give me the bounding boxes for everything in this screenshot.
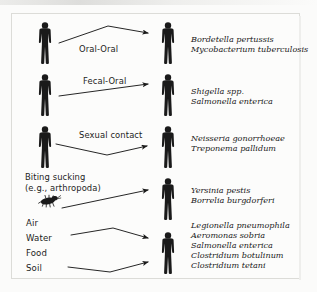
person-silhouette-icon [39, 22, 51, 168]
organism-name: Borrelia burgdorferi [191, 196, 275, 206]
organism-list-environmental: Legionella pneumophila Aeromonas sobria … [191, 221, 290, 271]
arthropod-icon [39, 195, 61, 207]
organism-list-fecal-oral: Shigella spp. Salmonella enterica [191, 87, 273, 107]
route-label-biting-sucking-line2: (e.g., arthropoda) [25, 183, 101, 193]
source-label-air: Air [26, 218, 38, 228]
organism-list-biting-sucking: Yersinia pestis Borrelia burgdorferi [191, 186, 275, 206]
source-label-food: Food [26, 248, 47, 258]
arrow-environment-upper [71, 228, 148, 238]
arrow-oral-oral [59, 26, 148, 43]
route-label-sexual-contact: Sexual contact [79, 130, 142, 140]
route-label-biting-sucking-line1: Biting sucking [25, 172, 85, 182]
organism-name: Mycobacterium tuberculosis [191, 45, 308, 55]
organism-list-oral-oral: Bordetella pertussis Mycobacterium tuber… [191, 35, 308, 55]
route-label-oral-oral: Oral-Oral [79, 44, 118, 54]
organism-list-sexual-contact: Neisseria gonorrhoeae Treponema pallidum [191, 134, 285, 154]
organism-name: Clostridium tetani [191, 261, 290, 271]
organism-name: Treponema pallidum [191, 144, 285, 154]
route-label-fecal-oral: Fecal-Oral [83, 76, 126, 86]
organism-name: Salmonella enterica [191, 97, 273, 107]
person-silhouette-icon [162, 22, 174, 274]
source-label-soil: Soil [26, 263, 42, 273]
arrow-sexual-contact [56, 144, 147, 155]
arrow-environment-lower [68, 262, 148, 272]
source-label-water: Water [26, 233, 52, 243]
diagram-canvas: Oral-Oral Fecal-Oral Sexual contact Biti… [0, 0, 317, 292]
